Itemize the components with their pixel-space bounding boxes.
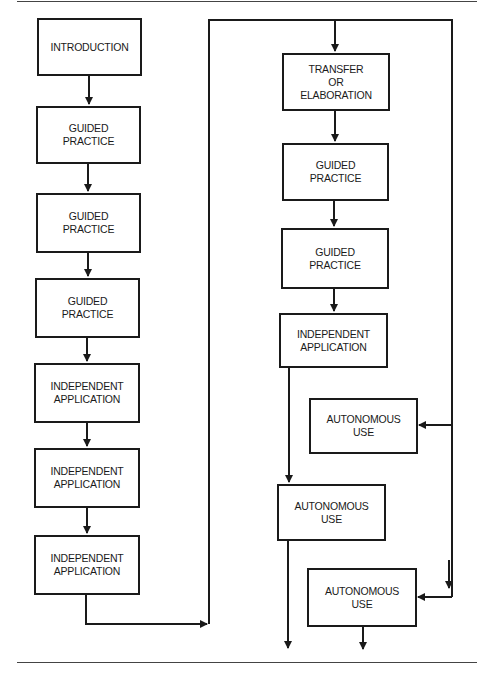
step-label: GUIDED PRACTICE <box>63 210 115 236</box>
step-independent-application: INDEPENDENT APPLICATION <box>34 448 140 508</box>
step-guided-practice: GUIDED PRACTICE <box>281 228 389 289</box>
step-label: GUIDED PRACTICE <box>309 246 361 272</box>
step-guided-practice: GUIDED PRACTICE <box>35 278 140 338</box>
step-introduction: INTRODUCTION <box>37 18 142 76</box>
step-label: GUIDED PRACTICE <box>63 122 115 148</box>
step-autonomous-use: AUTONOMOUS USE <box>277 484 386 541</box>
step-autonomous-use: AUTONOMOUS USE <box>309 398 418 454</box>
step-label: AUTONOMOUS USE <box>294 500 368 526</box>
step-independent-application: INDEPENDENT APPLICATION <box>34 363 140 423</box>
step-guided-practice: GUIDED PRACTICE <box>282 143 389 201</box>
step-label: INTRODUCTION <box>50 41 128 54</box>
step-label: INDEPENDENT APPLICATION <box>297 328 370 354</box>
step-label: GUIDED PRACTICE <box>62 295 114 321</box>
step-label: TRANSFER OR ELABORATION <box>300 63 372 102</box>
step-guided-practice: GUIDED PRACTICE <box>36 106 141 164</box>
step-label: INDEPENDENT APPLICATION <box>50 552 123 578</box>
step-transfer-or-elaboration: TRANSFER OR ELABORATION <box>282 53 390 111</box>
arrow-right-icon <box>86 595 207 624</box>
step-autonomous-use: AUTONOMOUS USE <box>307 568 417 627</box>
step-independent-application: INDEPENDENT APPLICATION <box>34 535 140 595</box>
step-independent-application: INDEPENDENT APPLICATION <box>279 313 388 368</box>
flowchart: INTRODUCTION GUIDED PRACTICE GUIDED PRAC… <box>0 0 477 675</box>
step-label: INDEPENDENT APPLICATION <box>50 380 123 406</box>
step-label: AUTONOMOUS USE <box>326 413 400 439</box>
step-label: INDEPENDENT APPLICATION <box>50 465 123 491</box>
step-label: AUTONOMOUS USE <box>325 585 399 611</box>
step-label: GUIDED PRACTICE <box>310 159 362 185</box>
step-guided-practice: GUIDED PRACTICE <box>36 193 141 253</box>
